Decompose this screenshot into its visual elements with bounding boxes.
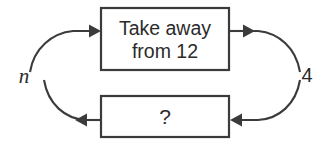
- arrow-output-to-inverse-path: [241, 80, 300, 120]
- arrow-input-to-operation-head: [89, 25, 101, 38]
- operation-box-line1: Take away: [119, 17, 211, 39]
- arrow-inverse-to-input-path: [44, 80, 101, 120]
- arrow-input-to-operation: [30, 25, 101, 73]
- output-label-4: 4: [301, 64, 312, 86]
- arrow-operation-to-output: [229, 25, 300, 73]
- input-label-n: n: [19, 64, 30, 88]
- function-machine-diagram: Take away from 12 ? n 4: [0, 0, 323, 151]
- arrow-inverse-to-input: [44, 80, 101, 127]
- arrow-input-to-operation-path: [30, 31, 90, 72]
- arrow-output-to-inverse-head: [230, 114, 242, 127]
- inverse-box-question-mark: ?: [159, 105, 171, 128]
- diagram-canvas: Take away from 12 ? n 4: [0, 0, 323, 151]
- operation-box-line2: from 12: [132, 40, 198, 62]
- arrow-operation-to-output-path: [245, 31, 300, 72]
- arrow-inverse-to-input-head: [75, 114, 87, 127]
- arrow-output-to-inverse: [230, 80, 300, 127]
